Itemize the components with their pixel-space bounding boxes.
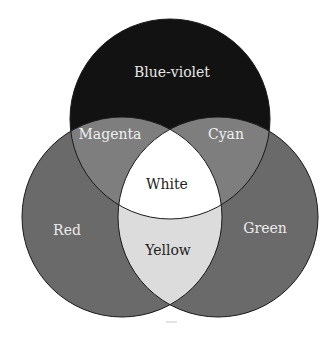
label-yellow: Yellow <box>144 242 191 258</box>
label-white: White <box>146 176 188 192</box>
label-green: Green <box>243 220 286 236</box>
label-red: Red <box>53 222 81 238</box>
label-blue-violet: Blue-violet <box>134 64 210 80</box>
label-magenta: Magenta <box>79 126 142 142</box>
label-cyan: Cyan <box>208 126 244 142</box>
venn-diagram: Blue-violet Magenta Cyan White Red Yello… <box>0 0 335 341</box>
